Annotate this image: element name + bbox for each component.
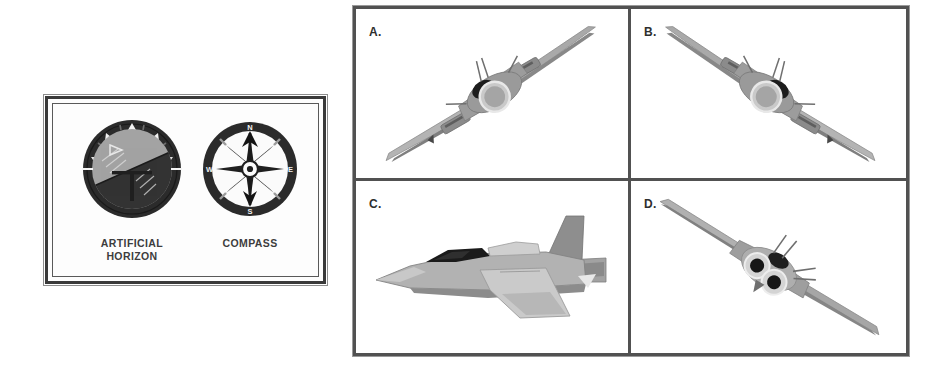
artificial-horizon-label-line1: ARTIFICIAL (101, 237, 163, 249)
aircraft-a-graphic (362, 10, 622, 178)
artificial-horizon-label-line2: HORIZON (106, 250, 157, 262)
answer-cell-c[interactable]: C. (356, 181, 631, 353)
aircraft-front-view-banked-left (631, 9, 906, 178)
answer-label-b: B. (644, 25, 657, 39)
answer-choice-grid: A. (353, 6, 909, 356)
answer-cell-a[interactable]: A. (356, 9, 631, 181)
compass-label-north: N (247, 123, 252, 132)
compass-label: COMPASS (194, 237, 306, 250)
compass-label-west: W (206, 165, 214, 174)
compass-label-line1: COMPASS (222, 237, 277, 249)
compass-label-east: E (288, 165, 293, 174)
compass-instrument: N E S W (194, 109, 306, 233)
dorsal-spine (488, 242, 540, 256)
artificial-horizon-graphic (76, 109, 188, 229)
answer-label-a: A. (369, 25, 382, 39)
aircraft-side-profile-level (356, 181, 628, 353)
aircraft-front-view-banked-right (356, 9, 628, 178)
compass-label-south: S (247, 207, 252, 216)
answer-label-c: C. (369, 197, 382, 211)
compass-graphic: N E S W (194, 109, 306, 229)
aircraft-d-graphic (639, 183, 899, 351)
aircraft-c-graphic (364, 192, 620, 342)
artificial-horizon-instrument: ARTIFICIAL HORIZON (76, 109, 188, 233)
aircraft-b-graphic (639, 10, 899, 178)
answer-cell-b[interactable]: B. (631, 9, 906, 181)
aircraft-rear-view-banked-left (631, 181, 906, 353)
artificial-horizon-label: ARTIFICIAL HORIZON (76, 237, 188, 262)
compass-hub (242, 161, 258, 177)
answer-cell-d[interactable]: D. (631, 181, 906, 353)
instrument-panel: ARTIFICIAL HORIZON N E S W (45, 96, 326, 284)
answer-label-d: D. (644, 197, 657, 211)
figure-root: ARTIFICIAL HORIZON N E S W (0, 0, 945, 380)
